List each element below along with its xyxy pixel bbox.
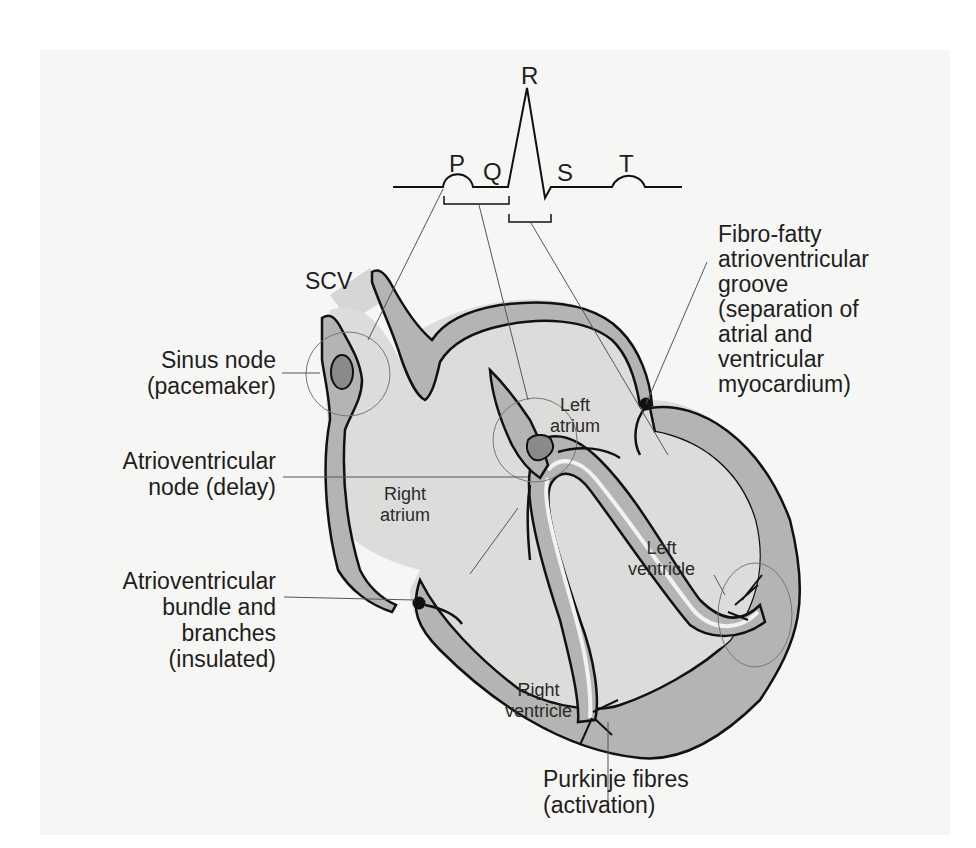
- sinus-node: [331, 355, 353, 389]
- right-ventricle-label: Right ventricle: [505, 680, 572, 722]
- purkinje-fibres-label: Purkinje fibres (activation): [543, 766, 689, 818]
- pr-interval-bracket: [444, 196, 509, 204]
- scv-label: SCV: [305, 268, 352, 294]
- left-atrium-label: Left atrium: [550, 395, 600, 437]
- ecg-t-wave-label: T: [619, 152, 634, 176]
- ecg-p-wave-label: P: [449, 152, 465, 176]
- av-groove-dot-right: [413, 597, 426, 610]
- right-atrium-label: Right atrium: [380, 484, 430, 526]
- ecg-q-wave-label: Q: [483, 160, 502, 184]
- heart-conduction-diagram: [0, 0, 976, 848]
- av-node-label: Atrioventricular node (delay): [123, 448, 276, 500]
- ecg-trace: [393, 88, 682, 198]
- ecg-s-wave-label: S: [557, 161, 573, 185]
- sinus-node-label: Sinus node (pacemaker): [147, 347, 276, 399]
- av-bundle-label: Atrioventricular bundle and branches (in…: [123, 568, 276, 672]
- fibro-fatty-groove-label: Fibro-fatty atrioventricular groove (sep…: [718, 222, 869, 397]
- ecg-r-wave-label: R: [521, 64, 538, 88]
- qrs-interval-bracket: [509, 214, 551, 222]
- left-ventricle-label: Left ventricle: [628, 538, 695, 580]
